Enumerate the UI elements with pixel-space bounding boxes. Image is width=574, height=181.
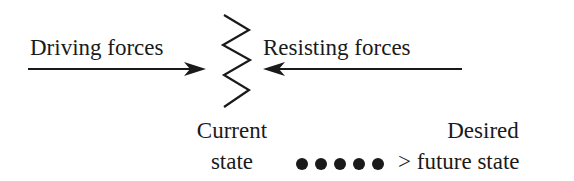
current-state-label-line1: Current [187, 119, 277, 142]
dot [296, 158, 308, 170]
driving-forces-arrow [28, 62, 206, 76]
resisting-forces-label: Resisting forces [263, 36, 411, 59]
transition-dots [296, 158, 384, 170]
desired-state-label-line1: Desired [428, 119, 538, 142]
driving-forces-label: Driving forces [30, 36, 164, 59]
dot [372, 158, 384, 170]
desired-state-label-line2: > future state [398, 150, 520, 173]
current-state-label-line2: state [187, 150, 277, 173]
equilibrium-zigzag-icon [223, 15, 250, 107]
dot [315, 158, 327, 170]
dot [353, 158, 365, 170]
resisting-forces-arrow [263, 62, 462, 76]
dot [334, 158, 346, 170]
